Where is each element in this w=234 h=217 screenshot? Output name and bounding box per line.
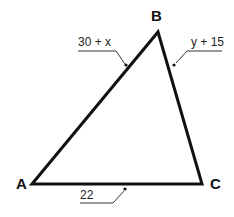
side-bc-text: y + 15: [191, 35, 224, 49]
triangle-abc: [32, 32, 202, 184]
side-label-ac: 22: [80, 187, 127, 203]
leader-line-bc: [176, 51, 222, 63]
leader-dot-bc: [172, 63, 175, 66]
side-ac-text: 22: [80, 188, 94, 202]
vertex-label-a: A: [16, 175, 27, 192]
leader-dot-ab: [124, 63, 127, 66]
leader-dot-ac: [123, 187, 126, 190]
vertex-label-c: C: [210, 175, 221, 192]
side-label-bc: y + 15: [172, 35, 224, 67]
leader-line-ab: [78, 51, 125, 64]
vertex-label-b: B: [151, 7, 162, 24]
triangle-diagram: A B C 30 + x y + 15 22: [0, 0, 234, 217]
side-label-ab: 30 + x: [78, 35, 128, 67]
side-ab-text: 30 + x: [78, 35, 111, 49]
